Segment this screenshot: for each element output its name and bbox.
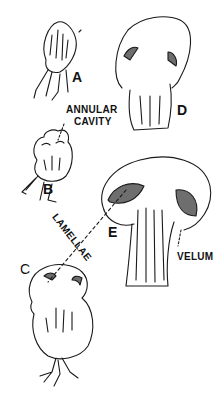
label-velum: VELUM — [177, 252, 214, 262]
stage-c-drawing — [29, 265, 93, 386]
label-a: A — [72, 70, 82, 84]
label-c: C — [20, 262, 30, 276]
label-d: D — [177, 103, 187, 117]
stage-e-drawing — [102, 157, 211, 286]
annular-leader-line — [58, 124, 64, 140]
label-cavity: CAVITY — [74, 117, 112, 127]
mushroom-illustration — [0, 0, 224, 399]
label-annular: ANNULAR — [66, 105, 118, 115]
stage-a-drawing — [34, 22, 81, 100]
label-e: E — [108, 225, 117, 239]
label-b: B — [43, 182, 53, 196]
